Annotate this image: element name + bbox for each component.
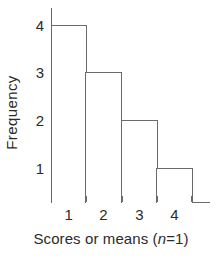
x-axis-title-italic-n: n <box>158 230 166 247</box>
bar-2 <box>85 72 122 203</box>
y-tick-label-3: 3 <box>22 65 44 80</box>
x-tick-mark-2 <box>121 196 122 202</box>
histogram-figure: 4 3 2 1 1 2 3 4 Frequency Scores or mean… <box>0 0 222 260</box>
y-tick-mark-1 <box>51 168 58 169</box>
y-axis-line <box>51 8 52 203</box>
x-tick-label-4: 4 <box>160 207 190 222</box>
y-tick-label-1: 1 <box>22 161 44 176</box>
x-tick-mark-4 <box>191 196 192 202</box>
y-tick-mark-3 <box>51 72 58 73</box>
x-tick-mark-3 <box>156 196 157 202</box>
y-tick-mark-4 <box>51 25 58 26</box>
bar-4 <box>156 168 192 203</box>
y-tick-label-4: 4 <box>22 18 44 33</box>
y-axis-title: Frequency <box>3 33 20 193</box>
x-tick-label-1: 1 <box>54 207 84 222</box>
x-axis-title: Scores or means (n=1) <box>0 230 222 247</box>
x-axis-line <box>51 202 210 203</box>
bar-1 <box>51 25 87 203</box>
x-tick-label-2: 2 <box>88 207 118 222</box>
y-tick-mark-2 <box>51 120 58 121</box>
x-axis-title-suffix: =1) <box>166 230 188 247</box>
x-axis-title-prefix: Scores or means ( <box>33 230 157 247</box>
x-tick-label-3: 3 <box>124 207 154 222</box>
x-tick-mark-0 <box>51 196 52 202</box>
bar-3 <box>121 120 157 203</box>
y-tick-label-2: 2 <box>22 113 44 128</box>
x-tick-mark-1 <box>85 196 86 202</box>
